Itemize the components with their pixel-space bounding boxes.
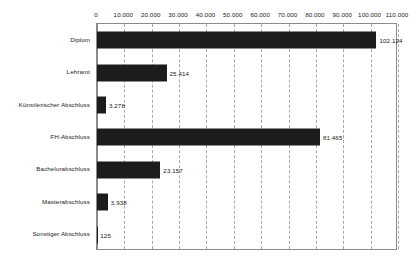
x-tick-label: 80.000 (305, 10, 325, 19)
bar[interactable] (97, 32, 376, 49)
x-tick-label: 10.000 (114, 10, 134, 19)
bar-value-label: 125 (100, 230, 111, 239)
bar-row: 3.938 (97, 186, 396, 218)
x-tick-label: 40.000 (196, 10, 216, 19)
category-axis-labels: DiplomLehramtKünstlerischer AbschlussFH-… (0, 23, 93, 250)
bar[interactable] (97, 64, 167, 81)
category-label: Diplom (70, 23, 90, 55)
bar[interactable] (97, 161, 160, 178)
x-tick-label: 0 (94, 10, 98, 19)
category-label: Masterabschluss (42, 185, 90, 217)
bar-row: 25.414 (97, 56, 396, 88)
bar-value-label: 3.938 (111, 198, 127, 207)
bar-value-label: 3.278 (109, 101, 125, 110)
bar-value-label: 25.414 (170, 68, 190, 77)
x-tick-label: 60.000 (250, 10, 270, 19)
bar[interactable] (97, 194, 108, 211)
x-tick-label: 50.000 (223, 10, 243, 19)
bar[interactable] (97, 226, 98, 243)
bar-row: 102.124 (97, 24, 396, 56)
gridline (398, 24, 399, 249)
bar-value-label: 23.157 (163, 165, 183, 174)
category-label: Sonstiger Abschluss (32, 218, 90, 250)
bar-chart: 010.00020.00030.00040.00050.00060.00070.… (0, 0, 416, 270)
bar-row: 23.157 (97, 154, 396, 186)
x-axis-tick-labels: 010.00020.00030.00040.00050.00060.00070.… (0, 10, 416, 22)
bar[interactable] (97, 129, 320, 146)
bar-rows: 102.12425.4143.27881.46523.1573.938125 (97, 24, 396, 249)
bar-row: 125 (97, 219, 396, 251)
bar-row: 81.465 (97, 121, 396, 153)
x-tick-label: 110.000 (386, 10, 409, 19)
x-tick-label: 70.000 (278, 10, 298, 19)
category-label: FH-Abschluss (50, 120, 90, 152)
bar-row: 3.278 (97, 89, 396, 121)
category-label: Bachelorabschluss (36, 153, 90, 185)
category-label: Künstlerischer Abschluss (19, 88, 90, 120)
x-tick-label: 20.000 (141, 10, 161, 19)
category-label: Lehramt (67, 55, 90, 87)
bar-value-label: 102.124 (379, 36, 402, 45)
x-tick-label: 100.000 (358, 10, 381, 19)
x-tick-label: 90.000 (333, 10, 353, 19)
x-tick-label: 30.000 (168, 10, 188, 19)
bar-value-label: 81.465 (323, 133, 343, 142)
plot-area: 102.12425.4143.27881.46523.1573.938125 (96, 23, 397, 250)
bar[interactable] (97, 97, 106, 114)
